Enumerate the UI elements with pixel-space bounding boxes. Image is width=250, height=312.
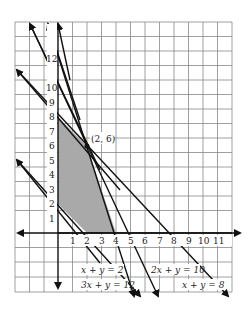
svg-text:7: 7 (49, 127, 55, 137)
label-x-plus-y-2: x + y = 2 (81, 265, 124, 275)
svg-text:3: 3 (49, 185, 55, 195)
svg-text:4: 4 (49, 170, 55, 180)
linear-programming-graph: (2, 6) 1 2 3 4 5 6 7 8 9 10 12 1 2 3 4 5… (0, 0, 250, 312)
intersection-point (85, 144, 90, 149)
svg-text:5: 5 (49, 156, 55, 166)
svg-text:4: 4 (113, 236, 119, 246)
svg-text:5: 5 (128, 236, 134, 246)
svg-text:1: 1 (49, 214, 55, 224)
svg-text:9: 9 (49, 98, 55, 108)
svg-text:11: 11 (213, 236, 224, 246)
x-tick-labels: 1 2 3 4 5 6 7 8 9 10 11 (60, 235, 232, 246)
svg-text:12: 12 (46, 54, 57, 64)
svg-text:6: 6 (49, 141, 55, 151)
svg-text:6: 6 (142, 236, 148, 246)
svg-text:1: 1 (70, 236, 76, 246)
svg-text:10: 10 (46, 83, 58, 93)
label-2x-plus-y-10: 2x + y = 10 (150, 265, 205, 275)
svg-text:9: 9 (186, 236, 192, 246)
svg-text:2: 2 (49, 199, 55, 209)
svg-text:8: 8 (171, 236, 177, 246)
svg-text:7: 7 (157, 236, 163, 246)
svg-text:10: 10 (198, 236, 210, 246)
label-x-plus-y-8: x + y = 8 (182, 280, 225, 290)
svg-text:3: 3 (99, 236, 105, 246)
label-3x-plus-y-12: 3x + y = 12 (81, 280, 135, 290)
point-label: (2, 6) (91, 134, 115, 144)
svg-text:2: 2 (84, 236, 90, 246)
y-tick-labels: 1 2 3 4 5 6 7 8 9 10 12 (46, 24, 58, 230)
svg-text:8: 8 (49, 112, 55, 122)
